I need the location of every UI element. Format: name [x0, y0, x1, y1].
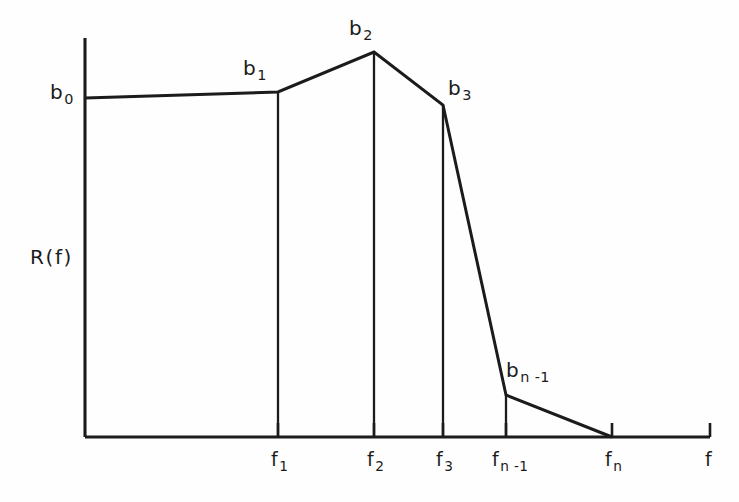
- label-f3: f3: [436, 450, 452, 469]
- label-fn-base: f: [605, 448, 612, 470]
- label-fn-subscript: n: [613, 458, 622, 474]
- label-fn-1-base: f: [492, 448, 499, 470]
- label-b0: b0: [50, 82, 73, 102]
- label-b1: b1: [243, 58, 266, 78]
- y-axis-label: R(f): [30, 247, 73, 267]
- label-b1-base: b: [243, 56, 256, 80]
- label-bn-1: bn -1: [506, 360, 548, 380]
- label-bn-1-subscript: n -1: [520, 369, 549, 385]
- label-fn-1-subscript: n -1: [500, 458, 528, 474]
- label-b3-base: b: [448, 76, 461, 100]
- figure-container: R(f) b0 b1 b2 b3 bn -1 f1 f2 f3 fn -1 fn…: [0, 0, 739, 502]
- label-f3-base: f: [436, 448, 443, 470]
- label-b3: b3: [448, 78, 471, 98]
- label-b2-subscript: 2: [363, 27, 372, 43]
- label-b2: b2: [349, 18, 372, 38]
- label-bn-1-base: b: [506, 358, 519, 382]
- label-f1-subscript: 1: [279, 458, 288, 474]
- label-b1-subscript: 1: [257, 67, 266, 83]
- label-fn-1: fn -1: [492, 450, 527, 469]
- label-b2-base: b: [349, 16, 362, 40]
- plot-canvas: [0, 0, 739, 502]
- label-f2-base: f: [367, 448, 374, 470]
- label-b0-subscript: 0: [64, 91, 73, 107]
- label-fn: fn: [605, 450, 621, 469]
- label-f1: f1: [271, 450, 287, 469]
- label-b0-base: b: [50, 80, 63, 104]
- label-f3-subscript: 3: [444, 458, 453, 474]
- x-axis-variable-label: f: [705, 450, 712, 469]
- label-f2-subscript: 2: [375, 458, 384, 474]
- label-b3-subscript: 3: [462, 87, 471, 103]
- label-f2: f2: [367, 450, 383, 469]
- label-f1-base: f: [271, 448, 278, 470]
